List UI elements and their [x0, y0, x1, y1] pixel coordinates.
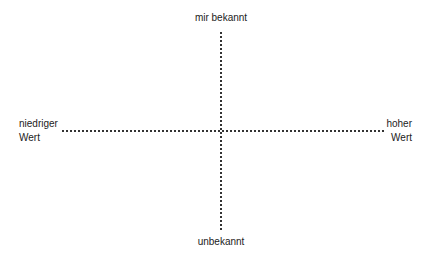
axis-label-left: niedriger Wert — [19, 117, 58, 145]
axis-label-top: mir bekannt — [0, 11, 431, 25]
right-label-line2: Wert — [386, 131, 412, 145]
quadrant-diagram: mir bekannt unbekannt niedriger Wert hoh… — [0, 0, 431, 260]
axis-label-bottom: unbekannt — [0, 235, 431, 249]
bottom-label-text: unbekannt — [0, 235, 431, 249]
left-label-line2: Wert — [19, 131, 58, 145]
horizontal-axis-dotted-line — [62, 130, 384, 132]
axis-label-right: hoher Wert — [386, 117, 412, 145]
vertical-axis-dotted-line — [220, 32, 222, 230]
left-label-line1: niedriger — [19, 117, 58, 131]
top-label-text: mir bekannt — [0, 11, 431, 25]
right-label-line1: hoher — [386, 117, 412, 131]
